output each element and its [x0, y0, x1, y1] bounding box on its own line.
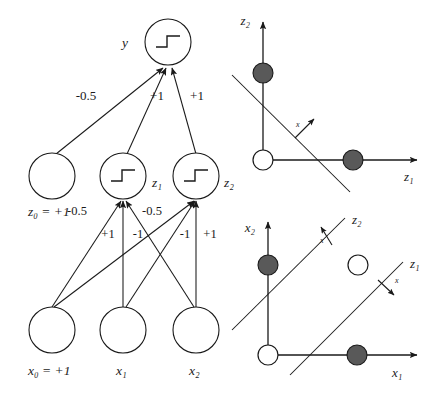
- node-y: [145, 19, 191, 65]
- z-space-decision-line: [232, 75, 350, 192]
- weight-x1-z1: +1: [101, 227, 114, 241]
- label-node-x1: x₁: [115, 363, 127, 378]
- weight-x2-z1: -1: [133, 227, 143, 241]
- x-space-z1-line: [290, 262, 403, 375]
- x-space-z2-normal-label: x: [319, 236, 324, 245]
- weight-x0-z2: -0.5: [142, 204, 162, 218]
- label-node-z2: z₂: [223, 175, 234, 190]
- z-space-x-axis-label: z₁: [403, 169, 414, 184]
- z-space-point-filled-right: [343, 150, 363, 170]
- x-space-z1-normal-arrow: [378, 280, 394, 295]
- x-space-z1-normal-label: x: [394, 276, 399, 285]
- output-weight-labels: -0.5 +1 +1: [76, 88, 204, 103]
- weight-z0-y: -0.5: [76, 88, 97, 103]
- label-node-z0: z₀ = +1: [27, 204, 70, 219]
- node-x0: [29, 307, 75, 353]
- z-space-normal-label: x: [295, 120, 300, 129]
- weight-z2-y: +1: [190, 88, 204, 103]
- weight-x1-z2: -1: [180, 227, 190, 241]
- edge-z2-y: [172, 68, 196, 154]
- x-space-x-axis-label: x₁: [391, 365, 402, 380]
- z-space-point-open-origin: [253, 150, 273, 170]
- label-node-y: y: [120, 35, 128, 50]
- label-node-z1: z₁: [151, 175, 162, 190]
- label-node-x2: x₂: [188, 363, 200, 378]
- diagram-svg: y z₀ = +1 z₁ z₂ x₀ = +1 x₁ x₂ -0.5 +1 +1…: [0, 0, 443, 396]
- hidden-weight-labels: -0.5 +1 -1 -0.5 -1 +1: [67, 204, 217, 241]
- x-space-point-open-corner: [348, 255, 368, 275]
- node-x2: [173, 307, 219, 353]
- output-layer-edges: [56, 68, 196, 154]
- x-space-y-axis-label: x₂: [244, 220, 256, 235]
- weight-x0-z1: -0.5: [67, 204, 87, 218]
- x-space-z2-line-label: z₂: [351, 212, 362, 227]
- x-space-plot: x z₂ x z₁ x₂ x₁: [232, 212, 420, 380]
- node-z2: [173, 153, 219, 199]
- z-space-plot: x z₂ z₁: [232, 13, 417, 192]
- weight-z1-y: +1: [150, 88, 164, 103]
- x-space-point-filled-right: [347, 345, 367, 365]
- x-space-point-open-origin: [258, 345, 278, 365]
- figure-canvas: y z₀ = +1 z₁ z₂ x₀ = +1 x₁ x₂ -0.5 +1 +1…: [0, 0, 443, 396]
- network-nodes: [29, 19, 219, 353]
- node-z1: [100, 153, 146, 199]
- x-space-z1-line-label: z₁: [409, 256, 420, 271]
- z-space-y-axis-label: z₂: [239, 13, 250, 28]
- node-x1: [100, 307, 146, 353]
- node-z0: [29, 153, 75, 199]
- z-space-point-filled-upper: [253, 63, 273, 83]
- label-node-x0: x₀ = +1: [27, 363, 70, 378]
- weight-x2-z2: +1: [203, 227, 216, 241]
- x-space-point-filled-upper: [258, 255, 278, 275]
